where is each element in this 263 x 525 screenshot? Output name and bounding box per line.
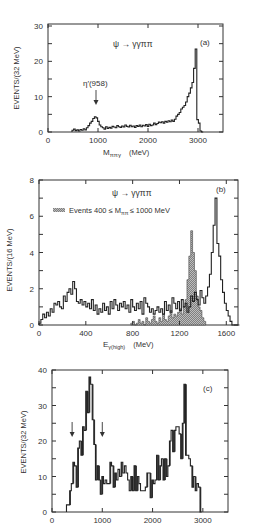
panel-a-tag: (a) [200,38,210,47]
svg-text:0: 0 [50,516,55,525]
svg-text:40: 40 [38,366,47,375]
svg-text:8: 8 [30,176,35,185]
svg-text:0: 0 [43,508,48,517]
panel-c-arrow-icons [70,422,105,437]
svg-text:0: 0 [30,321,35,330]
panel-b-y-axis-label: EVENTS/(16 MeV) [5,228,14,291]
panel-a-y-axis-label: EVENTS/(32 MeV) [12,46,21,109]
panel-b-histogram [39,198,239,325]
svg-text:10: 10 [34,93,43,102]
panel-a-x-tick-labels: 0100020003000 [46,136,208,145]
legend-hatch-swatch [53,208,65,212]
eta-prime-annotation: η′(958) [83,79,108,88]
panel-a-x-axis-label: Mππγ(MeV) [103,148,150,158]
figure: 0102030 0100020003000 ψ → γγππ (a) η′(95… [0,0,263,525]
svg-text:1000: 1000 [89,136,107,145]
svg-text:20: 20 [34,57,43,66]
panel-c: 010203040 0100020003000 (c) EVENTS/(32 M… [19,366,228,525]
svg-text:2: 2 [30,285,35,294]
panel-b-y-tick-labels: 02468 [30,176,35,330]
svg-text:0: 0 [39,128,44,137]
panel-a-y-tick-labels: 0102030 [34,22,43,137]
svg-text:30: 30 [38,402,47,411]
svg-text:3000: 3000 [194,516,212,525]
panel-b-title: ψ → γγππ [112,188,152,198]
panel-b-legend: Events 400 ≤ Mππ≤ 1000 MeV [69,206,170,216]
panel-b: 02468 040080012001600 ψ → γγππ (b) Event… [5,176,239,350]
eta-prime-arrow-icon [94,90,99,105]
panel-b-x-tick-labels: 040080012001600 [37,329,236,338]
panel-b-tag: (b) [216,185,226,194]
panel-a-title: ψ → γγππ [113,39,153,49]
svg-text:2000: 2000 [144,516,162,525]
panel-c-y-tick-labels: 010203040 [38,366,47,517]
svg-text:0: 0 [46,136,51,145]
svg-text:1200: 1200 [171,329,189,338]
panel-c-y-axis-label: EVENTS/(32 MeV) [19,410,28,473]
down-arrow-icon [100,422,105,437]
svg-text:2000: 2000 [139,136,157,145]
svg-text:4: 4 [30,249,35,258]
panel-b-x-axis-label: Eγ(high)(MeV) [103,340,154,350]
svg-text:10: 10 [38,473,47,482]
svg-text:30: 30 [34,22,43,31]
svg-text:1000: 1000 [93,516,111,525]
svg-text:20: 20 [38,437,47,446]
svg-text:0: 0 [37,329,42,338]
panel-a: 0102030 0100020003000 ψ → γγππ (a) η′(95… [12,22,223,158]
svg-text:3000: 3000 [189,136,207,145]
down-arrow-icon [70,422,75,437]
panel-a-histogram [72,49,203,132]
svg-text:1600: 1600 [217,329,235,338]
svg-text:400: 400 [79,329,93,338]
svg-text:800: 800 [126,329,140,338]
panel-c-tag: (c) [203,384,213,393]
svg-text:6: 6 [30,212,35,221]
panel-c-x-tick-labels: 0100020003000 [50,516,213,525]
